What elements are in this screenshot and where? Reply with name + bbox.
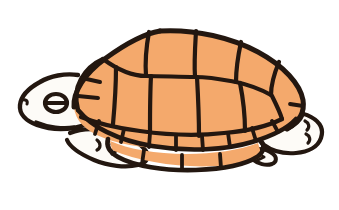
- turtle-drawing-svg: [0, 0, 339, 210]
- turtle-illustration: Cartoon clip-art turtle in side profile …: [0, 0, 339, 210]
- eye: [45, 94, 67, 112]
